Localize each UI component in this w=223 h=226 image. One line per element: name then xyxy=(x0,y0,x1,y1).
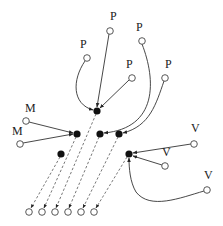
node-out1 xyxy=(26,209,33,216)
graph-diagram: P P P P P M M V V V xyxy=(0,0,223,226)
node-p2 xyxy=(107,28,114,35)
label-p5: P xyxy=(165,57,172,71)
node-out4 xyxy=(65,209,72,216)
label-p4: P xyxy=(126,57,133,71)
node-v3 xyxy=(204,187,211,194)
label-v2: V xyxy=(162,145,171,159)
edge-p4-hubA xyxy=(100,80,129,108)
edge-v2-hubE xyxy=(133,156,162,165)
node-p5 xyxy=(162,75,169,82)
edge-p2-hubA xyxy=(97,34,109,107)
node-out2 xyxy=(39,209,46,216)
hub-node-c xyxy=(96,130,103,137)
edge-p1-hubA xyxy=(76,61,93,110)
node-out5 xyxy=(78,209,85,216)
label-v3: V xyxy=(204,168,213,182)
node-p3 xyxy=(139,38,146,45)
edge-hubD-out5 xyxy=(83,137,118,208)
label-p3: P xyxy=(136,20,143,34)
edge-p5-hubD xyxy=(123,81,164,133)
edge-hubE-out6 xyxy=(96,157,127,208)
node-v1 xyxy=(191,141,198,148)
node-out6 xyxy=(91,209,98,216)
edge-m1-hubB xyxy=(29,122,73,133)
label-m1: M xyxy=(25,101,36,115)
node-v2 xyxy=(162,163,169,170)
label-m2: M xyxy=(12,124,23,138)
hub-node-b xyxy=(73,130,80,137)
hub-node-d xyxy=(115,130,122,137)
node-m2 xyxy=(17,141,24,148)
edge-hubC-out4 xyxy=(69,137,99,208)
hub-node-e xyxy=(125,150,132,157)
label-p2: P xyxy=(110,9,117,23)
node-m1 xyxy=(23,118,30,125)
input-edges xyxy=(23,34,204,201)
node-out3 xyxy=(52,209,59,216)
hub-node-f xyxy=(57,150,64,157)
node-p4 xyxy=(129,75,136,82)
edge-m2-hubB xyxy=(23,134,73,143)
output-edges xyxy=(31,114,127,208)
label-v1: V xyxy=(191,121,200,135)
hub-node-a xyxy=(93,107,100,114)
node-p1 xyxy=(84,55,91,62)
label-p1: P xyxy=(80,37,87,51)
